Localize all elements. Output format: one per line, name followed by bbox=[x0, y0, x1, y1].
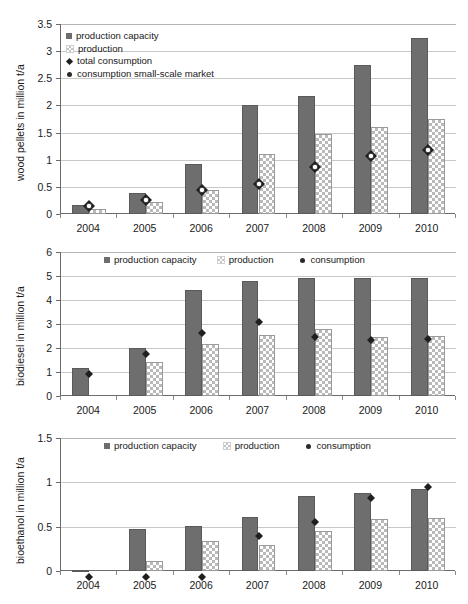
legend-entry-production: production bbox=[223, 440, 280, 452]
y-tick-mark bbox=[56, 51, 60, 52]
x-tick-mark bbox=[342, 571, 343, 575]
bar-production-capacity bbox=[72, 368, 89, 396]
y-tick-mark bbox=[56, 133, 60, 134]
y-tick-mark bbox=[56, 348, 60, 349]
x-tick-label: 2010 bbox=[399, 579, 455, 591]
bar-production bbox=[428, 119, 445, 214]
bar-production-capacity bbox=[242, 281, 259, 396]
gridline bbox=[61, 252, 456, 253]
gridline bbox=[61, 133, 456, 134]
x-tick-label: 2005 bbox=[116, 579, 172, 591]
x-tick-label: 2008 bbox=[286, 579, 342, 591]
legend-marker-diamond-icon bbox=[66, 58, 73, 65]
bar-production bbox=[146, 362, 163, 396]
figure-biofuel-charts: wood pellets in million t/a 00.511.522.5… bbox=[0, 0, 468, 604]
x-tick-mark bbox=[229, 571, 230, 575]
bar-production-capacity bbox=[72, 205, 89, 214]
y-tick-label: 2.5 bbox=[16, 73, 52, 83]
bar-production-capacity bbox=[185, 290, 202, 396]
y-tick-mark bbox=[56, 187, 60, 188]
x-tick-label: 2008 bbox=[286, 222, 342, 234]
bar-production bbox=[146, 202, 163, 214]
legend-bioethanol: production capacity production consumpti… bbox=[104, 440, 371, 452]
legend-label-total-consumption: total consumption bbox=[77, 55, 152, 67]
legend-swatch-capacity-icon bbox=[66, 33, 72, 39]
bar-production bbox=[428, 518, 445, 571]
gridline bbox=[61, 300, 456, 301]
y-tick-label: 1 bbox=[16, 367, 52, 377]
legend-entry-production-capacity: production capacity bbox=[66, 30, 214, 42]
bar-production-capacity bbox=[72, 570, 89, 572]
legend-label-production-capacity: production capacity bbox=[76, 30, 159, 42]
data-marker-consumption bbox=[424, 477, 432, 485]
x-tick-mark bbox=[342, 396, 343, 400]
chart-bioethanol: bioethanol in million t/a 00.511.5 20042… bbox=[0, 424, 468, 604]
bar-production bbox=[202, 541, 219, 571]
y-tick-label: 0 bbox=[16, 209, 52, 219]
x-tick-label: 2004 bbox=[60, 579, 116, 591]
y-tick-mark bbox=[56, 105, 60, 106]
gridline bbox=[61, 105, 456, 106]
x-tick-label: 2009 bbox=[342, 404, 398, 416]
legend-entry-consumption: consumption bbox=[305, 440, 370, 452]
bar-production-capacity bbox=[185, 526, 202, 571]
x-tick-mark bbox=[116, 396, 117, 400]
bar-production bbox=[89, 209, 106, 214]
y-tick-label: 1 bbox=[16, 477, 52, 487]
bar-production bbox=[315, 329, 332, 396]
x-tick-label: 2006 bbox=[173, 579, 229, 591]
bar-production-capacity bbox=[354, 65, 371, 214]
y-tick-label: 0.5 bbox=[16, 522, 52, 532]
bar-production bbox=[371, 127, 388, 214]
legend-marker-diamond-icon bbox=[306, 444, 311, 449]
y-tick-mark bbox=[56, 276, 60, 277]
bar-production-capacity bbox=[411, 489, 428, 571]
legend-label-production-capacity: production capacity bbox=[114, 254, 197, 266]
bar-production-capacity bbox=[129, 193, 146, 214]
x-tick-label: 2007 bbox=[229, 404, 285, 416]
x-tick-mark bbox=[173, 214, 174, 218]
y-tick-label: 5 bbox=[16, 271, 52, 281]
legend-label-production: production bbox=[229, 254, 274, 266]
bar-production bbox=[428, 336, 445, 396]
y-tick-label: 3 bbox=[16, 319, 52, 329]
gridline bbox=[61, 324, 456, 325]
legend-swatch-production-icon bbox=[223, 442, 231, 450]
bar-production-capacity bbox=[129, 529, 146, 571]
y-tick-mark bbox=[56, 24, 60, 25]
gridline bbox=[61, 482, 456, 483]
bar-production-capacity bbox=[129, 348, 146, 396]
bar-production bbox=[202, 190, 219, 214]
x-tick-label: 2004 bbox=[60, 222, 116, 234]
y-tick-mark bbox=[56, 372, 60, 373]
legend-label-production: production bbox=[235, 440, 280, 452]
chart-biodiesel: biodiesel in million t/a 0123456 2004200… bbox=[0, 238, 468, 422]
y-tick-label: 1.5 bbox=[16, 433, 52, 443]
legend-entry-consumption: consumption bbox=[299, 254, 364, 266]
y-tick-label: 3.5 bbox=[16, 19, 52, 29]
plot-area-bioethanol bbox=[60, 438, 455, 571]
y-tick-mark bbox=[56, 252, 60, 253]
y-tick-mark bbox=[56, 300, 60, 301]
plot-area-biodiesel bbox=[60, 252, 455, 396]
x-tick-mark bbox=[455, 214, 456, 218]
bar-production-capacity bbox=[411, 278, 428, 396]
x-tick-mark bbox=[60, 396, 61, 400]
x-tick-mark bbox=[342, 214, 343, 218]
y-tick-label: 4 bbox=[16, 295, 52, 305]
bar-production-capacity bbox=[242, 517, 259, 571]
legend-entry-production-capacity: production capacity bbox=[104, 440, 197, 452]
x-tick-mark bbox=[286, 396, 287, 400]
y-tick-label: 0 bbox=[16, 566, 52, 576]
legend-entry-production: production bbox=[217, 254, 274, 266]
bar-production bbox=[259, 335, 276, 396]
legend-label-consumption-small-scale: consumption small-scale market bbox=[77, 68, 214, 80]
gridline bbox=[61, 276, 456, 277]
x-tick-mark bbox=[173, 571, 174, 575]
bar-production-capacity bbox=[298, 96, 315, 214]
legend-label-consumption: consumption bbox=[316, 440, 370, 452]
legend-entry-consumption-small-scale: consumption small-scale market bbox=[66, 68, 214, 80]
y-tick-mark bbox=[56, 438, 60, 439]
y-tick-label: 0.5 bbox=[16, 182, 52, 192]
x-tick-mark bbox=[60, 571, 61, 575]
